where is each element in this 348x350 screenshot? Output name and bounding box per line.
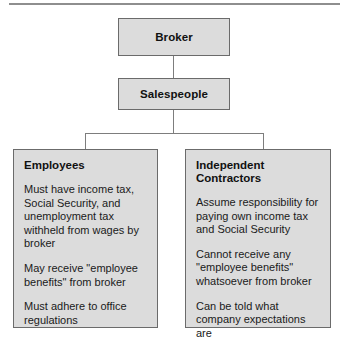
panel-employees-item: Must have income tax, Social Security, a… <box>24 183 147 251</box>
connector-drop-to-employees <box>85 133 86 149</box>
panel-employees-heading: Employees <box>24 159 147 172</box>
connector-drop-to-contractors <box>263 133 264 149</box>
panel-contractors-item: Can be told what company expectations ar… <box>196 300 320 341</box>
top-divider-rule <box>9 3 340 5</box>
org-chart-diagram: Broker Salespeople Employees Must have i… <box>0 0 348 350</box>
panel-employees-item: Must adhere to office regulations <box>24 300 147 327</box>
panel-contractors-heading: Independent Contractors <box>196 159 320 185</box>
panel-independent-contractors: Independent Contractors Assume responsib… <box>185 149 331 328</box>
node-broker: Broker <box>118 18 230 56</box>
panel-contractors-item: Cannot receive any "employee benefits" w… <box>196 248 320 289</box>
connector-broker-to-salespeople <box>173 56 174 78</box>
node-salespeople: Salespeople <box>118 78 230 110</box>
connector-salespeople-stem <box>173 110 174 133</box>
panel-employees: Employees Must have income tax, Social S… <box>13 149 158 328</box>
panel-employees-item: May receive "employee benefits" from bro… <box>24 262 147 289</box>
node-broker-label: Broker <box>155 31 193 43</box>
node-salespeople-label: Salespeople <box>140 88 208 100</box>
connector-horizontal-bar <box>85 133 264 134</box>
panel-contractors-item: Assume responsibility for paying own inc… <box>196 196 320 237</box>
